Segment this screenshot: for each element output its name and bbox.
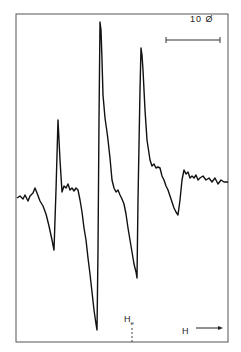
field-axis-label: H [182, 326, 189, 336]
he-sub: e [131, 320, 134, 326]
arrow-right-icon [218, 326, 223, 330]
scale-bar [166, 37, 220, 43]
h-text: H [182, 326, 189, 336]
spectrum-trace [17, 22, 228, 330]
epr-spectrum-plot [0, 0, 241, 352]
scale-bar-label: 10 Ø [190, 14, 214, 24]
he-marker-label: He [124, 314, 134, 326]
plot-frame [16, 14, 228, 342]
